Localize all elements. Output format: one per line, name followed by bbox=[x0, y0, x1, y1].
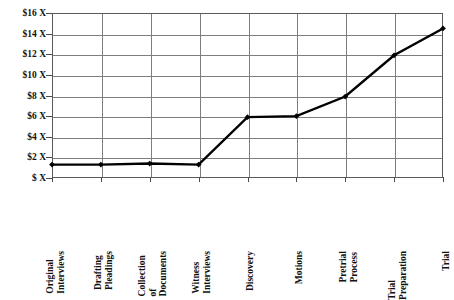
x-axis-tick-label-line: Original bbox=[45, 251, 56, 294]
x-axis-tick-label: WitnessInterviews bbox=[191, 251, 212, 294]
x-axis-tick-mark bbox=[101, 177, 102, 182]
x-axis-tick-label-line: Motions bbox=[294, 251, 305, 284]
x-axis-tick-label: CollectionofDocuments bbox=[137, 251, 169, 296]
y-axis-tick-label: $16 X bbox=[0, 8, 46, 18]
y-axis-tick-label: $14 X bbox=[0, 29, 46, 39]
x-axis-tick-label: Motions bbox=[294, 251, 305, 284]
x-axis-tick-label-line: Discovery bbox=[245, 251, 256, 291]
x-axis-tick-mark bbox=[52, 177, 53, 182]
x-axis-tick-mark bbox=[443, 177, 444, 182]
x-axis-tick-mark bbox=[199, 177, 200, 182]
data-point-marker bbox=[98, 162, 104, 168]
x-axis-tick-label-line: Preparation bbox=[397, 251, 408, 300]
y-axis-tick-label: $2 X bbox=[0, 152, 46, 162]
x-axis-tick-label: Discovery bbox=[245, 251, 256, 291]
x-axis: OriginalInterviewsDraftingPleadingsColle… bbox=[0, 181, 454, 255]
data-point-marker bbox=[49, 162, 55, 168]
x-axis-tick-label-line: Trial bbox=[387, 251, 398, 300]
y-axis-tick-label: $6 X bbox=[0, 111, 46, 121]
x-axis-tick-mark bbox=[394, 177, 395, 182]
x-axis-tick-label-line: Documents bbox=[158, 251, 169, 296]
x-axis-tick-mark bbox=[150, 177, 151, 182]
x-axis-tick-mark bbox=[345, 177, 346, 182]
x-axis-tick-mark bbox=[248, 177, 249, 182]
data-line bbox=[52, 28, 443, 164]
x-axis-tick-label: Trial bbox=[441, 251, 452, 271]
x-axis-tick-label-line: Drafting bbox=[93, 251, 104, 290]
y-axis-tick-label: $10 X bbox=[0, 70, 46, 80]
x-axis-tick-label-line: Trial bbox=[441, 251, 452, 271]
x-axis-tick-label-line: Witness bbox=[191, 251, 202, 294]
y-axis-tick-label: $4 X bbox=[0, 132, 46, 142]
y-axis-tick-label: $12 X bbox=[0, 49, 46, 59]
x-axis-tick-label-line: Pretrial bbox=[338, 251, 349, 282]
x-axis-tick-label-line: Process bbox=[348, 251, 359, 282]
x-axis-tick-label-line: Interviews bbox=[202, 251, 213, 294]
x-axis-tick-label-line: of bbox=[148, 251, 159, 296]
x-axis-tick-label: DraftingPleadings bbox=[93, 251, 114, 290]
x-axis-tick-label: PretrialProcess bbox=[338, 251, 359, 282]
x-axis-tick-label-line: Collection bbox=[137, 251, 148, 296]
x-axis-tick-label: OriginalInterviews bbox=[45, 251, 66, 294]
x-axis-tick-label: TrialPreparation bbox=[387, 251, 408, 300]
x-axis-tick-mark bbox=[296, 177, 297, 182]
data-point-marker bbox=[147, 161, 153, 167]
series-line bbox=[52, 13, 443, 178]
x-axis-tick-label-line: Interviews bbox=[55, 251, 66, 294]
y-axis-tick-label: $8 X bbox=[0, 91, 46, 101]
x-axis-tick-label-line: Pleadings bbox=[104, 251, 115, 290]
